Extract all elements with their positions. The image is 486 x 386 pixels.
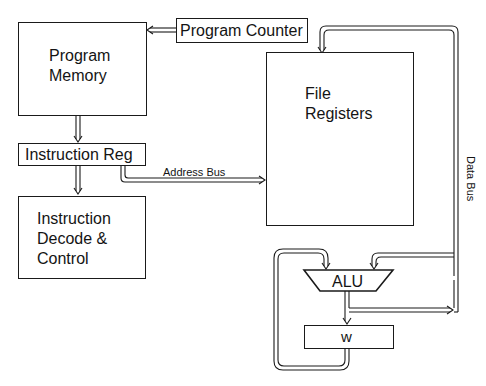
instruction-reg-label: Instruction Reg	[25, 145, 133, 164]
ir-to-decode-arrow	[74, 165, 82, 194]
memory-to-ir-arrow	[74, 115, 82, 142]
file-registers-label-1: File	[305, 84, 331, 103]
file-registers-block	[266, 52, 414, 226]
instruction-decode-label-2: Decode &	[37, 229, 107, 248]
program-memory-label-1: Program	[49, 46, 110, 65]
bus-to-alu-arrow	[370, 253, 454, 269]
alu-output-wires	[343, 290, 453, 324]
program-memory-label-2: Memory	[49, 66, 107, 85]
w-register-label: w	[341, 327, 352, 346]
data-bus-label: Data Bus	[465, 156, 477, 201]
address-bus-label: Address Bus	[163, 166, 225, 178]
program-counter-label: Program Counter	[180, 21, 303, 40]
file-registers-label-2: Registers	[305, 104, 373, 123]
instruction-decode-label-1: Instruction	[37, 209, 111, 228]
instruction-decode-label-3: Control	[37, 249, 89, 268]
alu-label: ALU	[332, 272, 363, 291]
w-feedback-loop	[274, 249, 349, 370]
pc-to-memory-arrow	[147, 26, 176, 34]
